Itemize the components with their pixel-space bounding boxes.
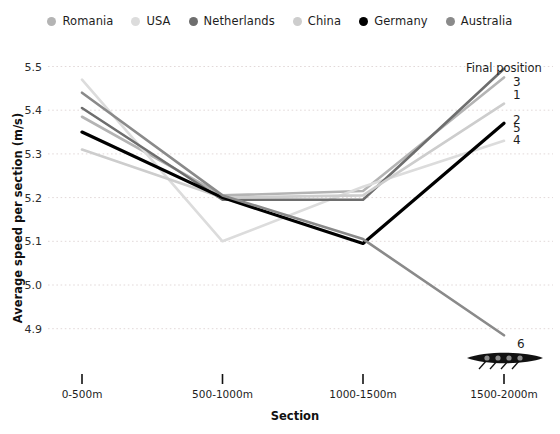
final-position-label: 4 [513,133,521,147]
y-axis-title: Average speed per section (m/s) [11,113,25,323]
final-position-title: Final position [466,61,542,75]
y-tick-label: 5.3 [25,148,43,161]
series-lines [82,69,504,336]
series-line-netherlands [82,69,504,200]
plot-area: 4.95.05.15.25.35.45.5 0-500m500-1000m100… [0,0,560,434]
final-position-label: 1 [513,88,521,102]
y-tick-label: 5.5 [25,61,43,74]
final-position-label: 3 [513,75,521,89]
speed-per-section-chart: RomaniaUSANetherlandsChinaGermanyAustral… [0,0,560,434]
x-axis-title: Section [271,409,319,423]
y-tick-labels: 4.95.05.15.25.35.45.5 [25,61,43,336]
x-tick-label: 1000-1500m [329,388,396,400]
y-tick-label: 5.0 [25,279,43,292]
x-tick-label: 0-500m [62,388,103,400]
y-tick-label: 5.2 [25,192,43,205]
series-line-germany [82,123,504,243]
y-tick-label: 4.9 [25,323,43,336]
y-tick-label: 5.1 [25,235,43,248]
x-tick-marks [82,374,504,384]
x-tick-labels: 0-500m500-1000m1000-1500m1500-2000m [62,388,538,400]
rowing-boat-icon [467,353,543,369]
final-position-labels: 312546 [513,75,525,351]
plot-svg: 4.95.05.15.25.35.45.5 0-500m500-1000m100… [0,0,560,434]
y-tick-label: 5.4 [25,104,43,117]
x-tick-label: 500-1000m [192,388,253,400]
final-position-label: 6 [517,337,525,351]
x-tick-label: 1500-2000m [470,388,537,400]
